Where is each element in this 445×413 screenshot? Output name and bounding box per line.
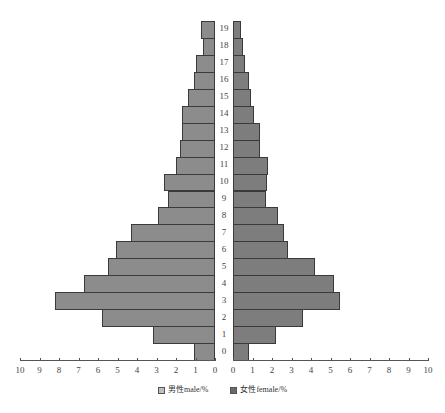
left-tick-label: 3 — [147, 365, 167, 375]
male-bar-age-5 — [108, 258, 215, 276]
female-bar-age-6 — [233, 241, 288, 259]
tick-mark — [98, 358, 99, 361]
male-bar-age-2 — [102, 309, 215, 327]
age-label: 10 — [216, 176, 232, 186]
tick-mark — [350, 358, 351, 361]
male-bar-age-18 — [203, 38, 215, 56]
tick-mark — [215, 358, 216, 361]
left-tick-label: 4 — [127, 365, 147, 375]
female-bar-age-9 — [233, 191, 266, 209]
age-label: 3 — [216, 295, 232, 305]
tick-mark — [428, 358, 429, 361]
female-bar-age-2 — [233, 309, 303, 327]
age-label: 5 — [216, 261, 232, 271]
tick-mark — [253, 358, 254, 361]
female-bar-age-16 — [233, 72, 249, 90]
female-bar-age-13 — [233, 123, 260, 141]
male-bar-age-0 — [194, 343, 215, 361]
male-bar-age-9 — [168, 191, 215, 209]
male-bar-age-1 — [153, 326, 215, 344]
right-tick-label: 9 — [399, 365, 419, 375]
right-tick-label: 5 — [321, 365, 341, 375]
left-tick-label: 0 — [205, 365, 225, 375]
age-label: 19 — [216, 23, 232, 33]
male-bar-age-8 — [158, 207, 215, 225]
right-tick-label: 0 — [223, 365, 243, 375]
female-bar-age-7 — [233, 224, 284, 242]
left-tick-label: 8 — [49, 365, 69, 375]
male-bar-age-7 — [131, 224, 215, 242]
left-tick-label: 10 — [10, 365, 30, 375]
tick-mark — [292, 358, 293, 361]
tick-mark — [20, 358, 21, 361]
age-label: 18 — [216, 40, 232, 50]
age-label: 14 — [216, 108, 232, 118]
age-label: 0 — [216, 346, 232, 356]
age-label: 2 — [216, 312, 232, 322]
right-tick-label: 6 — [340, 365, 360, 375]
female-bar-age-8 — [233, 207, 278, 225]
age-label: 17 — [216, 57, 232, 67]
tick-mark — [157, 358, 158, 361]
female-bar-age-15 — [233, 89, 251, 107]
female-swatch-icon — [230, 387, 237, 394]
male-bar-age-3 — [55, 292, 215, 310]
right-tick-label: 1 — [243, 365, 263, 375]
age-label: 13 — [216, 125, 232, 135]
female-bar-age-3 — [233, 292, 340, 310]
tick-mark — [118, 358, 119, 361]
female-bar-age-10 — [233, 174, 267, 192]
female-bar-age-12 — [233, 140, 260, 158]
right-tick-label: 4 — [301, 365, 321, 375]
tick-mark — [59, 358, 60, 361]
tick-mark — [409, 358, 410, 361]
male-bar-age-14 — [182, 106, 215, 124]
right-tick-label: 10 — [418, 365, 438, 375]
male-bar-age-19 — [201, 21, 215, 39]
male-bar-age-11 — [176, 157, 215, 175]
tick-mark — [176, 358, 177, 361]
left-tick-label: 1 — [186, 365, 206, 375]
tick-mark — [137, 358, 138, 361]
tick-mark — [233, 358, 234, 361]
tick-mark — [40, 358, 41, 361]
male-bar-age-16 — [194, 72, 215, 90]
age-label: 12 — [216, 142, 232, 152]
age-label: 16 — [216, 74, 232, 84]
male-swatch-icon — [158, 387, 165, 394]
right-tick-label: 8 — [379, 365, 399, 375]
male-bar-age-6 — [116, 241, 215, 259]
left-tick-label: 6 — [88, 365, 108, 375]
left-tick-label: 9 — [30, 365, 50, 375]
tick-mark — [79, 358, 80, 361]
age-label: 11 — [216, 159, 232, 169]
left-tick-label: 5 — [108, 365, 128, 375]
male-bar-age-10 — [164, 174, 215, 192]
male-bar-age-17 — [196, 55, 216, 73]
age-label: 4 — [216, 278, 232, 288]
right-tick-label: 3 — [282, 365, 302, 375]
population-pyramid-chart: 0123456789101112131415161718191098765432… — [0, 0, 445, 413]
legend-item-female: 女性female/% — [230, 383, 287, 394]
tick-mark — [311, 358, 312, 361]
female-bar-age-5 — [233, 258, 315, 276]
legend: 男性male/% 女性female/% — [0, 383, 445, 394]
female-bar-age-1 — [233, 326, 276, 344]
female-bar-age-17 — [233, 55, 245, 73]
tick-mark — [196, 358, 197, 361]
tick-mark — [370, 358, 371, 361]
female-bar-age-4 — [233, 275, 334, 293]
female-bar-age-11 — [233, 157, 268, 175]
legend-label-male: 男性male/% — [168, 385, 208, 394]
tick-mark — [331, 358, 332, 361]
male-bar-age-15 — [188, 89, 215, 107]
age-label: 15 — [216, 91, 232, 101]
legend-label-female: 女性female/% — [240, 385, 287, 394]
legend-item-male: 男性male/% — [158, 383, 208, 394]
age-label: 9 — [216, 193, 232, 203]
female-bar-age-0 — [233, 343, 249, 361]
left-tick-label: 2 — [166, 365, 186, 375]
left-tick-label: 7 — [69, 365, 89, 375]
age-label: 8 — [216, 210, 232, 220]
female-bar-age-18 — [233, 38, 243, 56]
